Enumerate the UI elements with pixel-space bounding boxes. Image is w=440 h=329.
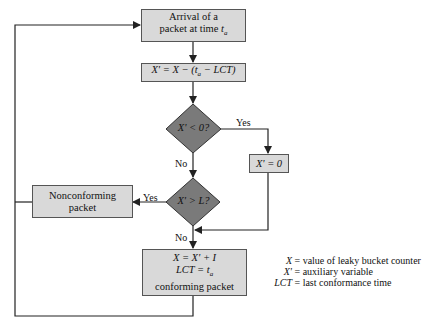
compute-box: X' = X − (ta − LCT) xyxy=(141,63,246,82)
arrival-line2: packet at time ta xyxy=(160,23,228,39)
decision2-label: X' > L? xyxy=(166,195,221,206)
legend-row: LCT = last conformance time xyxy=(250,277,421,288)
conforming-line2: LCT = ta xyxy=(176,264,213,280)
legend-row: X = value of leaky bucket counter xyxy=(250,255,421,266)
conforming-line3: conforming packet xyxy=(155,281,234,293)
d1-no-label: No xyxy=(175,158,187,169)
d1-yes-label: Yes xyxy=(236,117,251,128)
nonconforming-line2: packet xyxy=(69,202,96,214)
set-zero-box: X' = 0 xyxy=(249,154,289,173)
leaky-bucket-flowchart: Arrival of a packet at time ta X' = X − … xyxy=(0,0,440,329)
legend: X = value of leaky bucket counter X' = a… xyxy=(250,255,421,288)
conforming-line1: X = X' + I xyxy=(173,252,216,264)
decision1-label: X' < 0? xyxy=(166,122,221,133)
arrival-line1: Arrival of a xyxy=(169,11,218,23)
arrival-box: Arrival of a packet at time ta xyxy=(141,9,246,42)
d2-no-label: No xyxy=(175,232,187,243)
compute-formula: X' = X − (ta − LCT) xyxy=(151,64,235,80)
nonconforming-box: Nonconforming packet xyxy=(32,185,133,218)
conforming-box: X = X' + I LCT = ta conforming packet xyxy=(142,249,247,296)
d2-yes-label: Yes xyxy=(143,192,158,203)
nonconforming-line1: Nonconforming xyxy=(49,190,116,202)
legend-row: X' = auxiliary variable xyxy=(250,266,421,277)
